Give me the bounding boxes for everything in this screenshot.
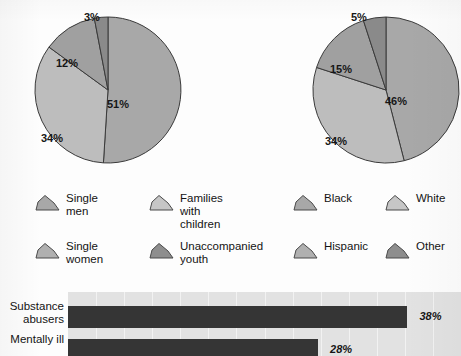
- legend-item-household-2[interactable]: Single women: [34, 240, 103, 266]
- legend-item-race-3[interactable]: Other: [384, 240, 445, 259]
- bar-plot-area: [68, 292, 461, 356]
- legend-wedge-icon: [34, 194, 60, 211]
- bar-row[interactable]: [68, 339, 461, 356]
- bar-1[interactable]: [68, 339, 318, 356]
- legend-wedge-icon: [148, 242, 174, 259]
- pie-household-value-3: 3%: [84, 11, 100, 23]
- legend-item-race-0[interactable]: Black: [292, 192, 352, 211]
- bar-value-label-1: 28%: [330, 343, 352, 355]
- legend-item-race-2[interactable]: Hispanic: [292, 240, 368, 259]
- legend-wedge-icon: [34, 242, 60, 259]
- bar-chart-conditions[interactable]: 38%Substance abusers28%Mentally ill: [0, 285, 461, 356]
- bar-row[interactable]: [68, 306, 461, 328]
- legend-label-household-3: Unaccompanied youth: [180, 240, 263, 266]
- bar-value-label-0: 38%: [419, 310, 441, 322]
- legend-wedge-icon: [384, 242, 410, 259]
- legend-label-household-1: Families with children: [180, 192, 223, 231]
- pie-race-value-2: 15%: [330, 63, 352, 75]
- pie-household-value-2: 12%: [56, 57, 78, 69]
- legend-label-race-2: Hispanic: [324, 240, 368, 253]
- bar-0[interactable]: [68, 306, 407, 328]
- pie-household-value-0: 51%: [107, 98, 129, 110]
- household-slice-0[interactable]: [103, 17, 181, 163]
- legend-label-race-3: Other: [416, 240, 445, 253]
- pie-race-value-1: 34%: [325, 135, 347, 147]
- bar-category-label-1: Mentally ill: [10, 333, 64, 346]
- legend-label-race-1: White: [416, 192, 445, 205]
- legend-label-race-0: Black: [324, 192, 352, 205]
- pie-household-value-1: 34%: [41, 132, 63, 144]
- pie-race-value-0: 46%: [385, 95, 407, 107]
- legend-label-household-0: Single men: [66, 192, 98, 218]
- legend-wedge-icon: [148, 194, 174, 211]
- pie-race-value-3: 5%: [351, 11, 367, 23]
- legend-item-race-1[interactable]: White: [384, 192, 445, 211]
- bar-category-label-0: Substance abusers: [10, 300, 64, 326]
- pie-charts-region: 51%34%12%3%46%34%15%5%: [0, 0, 461, 185]
- legend-wedge-icon: [384, 194, 410, 211]
- legend-item-household-3[interactable]: Unaccompanied youth: [148, 240, 263, 266]
- legend-label-household-2: Single women: [66, 240, 103, 266]
- legend-item-household-1[interactable]: Families with children: [148, 192, 223, 231]
- legend-wedge-icon: [292, 242, 318, 259]
- legend-item-household-0[interactable]: Single men: [34, 192, 98, 218]
- legend-wedge-icon: [292, 194, 318, 211]
